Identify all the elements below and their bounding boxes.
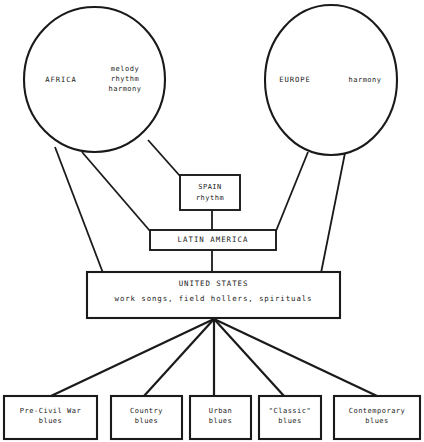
- branch-box-5[interactable]: [334, 396, 420, 439]
- connector-europe-to-latin-america: [276, 152, 308, 231]
- africa-circle[interactable]: [24, 7, 165, 152]
- branch-box-2[interactable]: [111, 396, 182, 439]
- connector-europe-to-united-states: [321, 153, 345, 273]
- connector-us-to-branch-4: [214, 319, 284, 396]
- branch-box-3[interactable]: [190, 396, 251, 439]
- connector-us-to-branch-1: [51, 319, 214, 396]
- diagram-graphics-layer: [0, 0, 424, 442]
- connector-us-to-branch-5: [214, 319, 377, 396]
- latin-america-box[interactable]: [150, 230, 276, 250]
- spain-box[interactable]: [180, 175, 240, 210]
- blues-origins-diagram: AFRICA melody rhythm harmony EUROPE harm…: [0, 0, 424, 442]
- europe-circle[interactable]: [265, 5, 397, 155]
- branch-box-4[interactable]: [259, 396, 321, 439]
- connector-africa-to-latin-america: [82, 152, 150, 231]
- branch-box-1[interactable]: [4, 396, 97, 439]
- connector-africa-to-spain: [148, 140, 180, 176]
- united-states-box[interactable]: [87, 272, 340, 318]
- connector-africa-to-united-states: [55, 147, 103, 273]
- connector-us-to-branch-2: [144, 319, 214, 396]
